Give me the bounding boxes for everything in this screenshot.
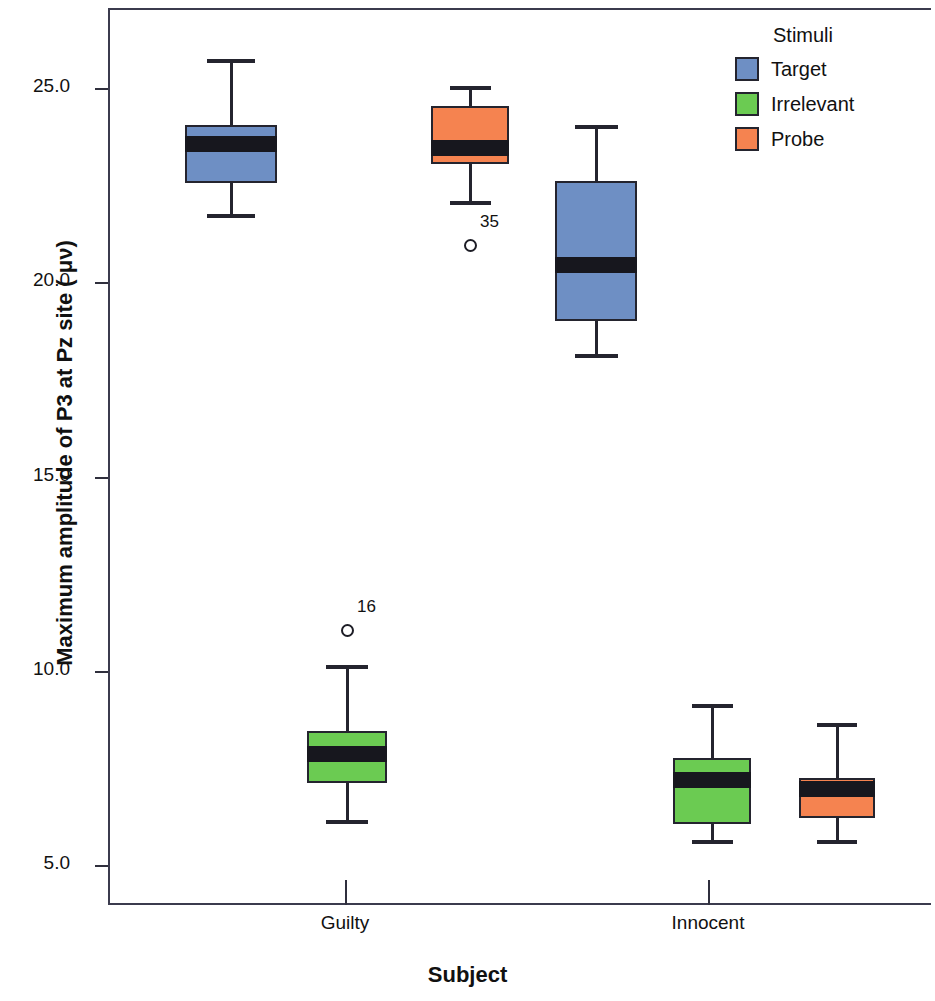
legend-swatch-icon bbox=[735, 57, 759, 81]
x-tick-mark bbox=[708, 880, 710, 905]
legend-item-label: Irrelevant bbox=[771, 94, 854, 114]
whisker-lower bbox=[595, 321, 598, 354]
x-tick-mark bbox=[345, 880, 347, 905]
y-tick-mark bbox=[95, 88, 108, 90]
whisker-cap-lower bbox=[450, 201, 491, 205]
whisker-cap-lower bbox=[817, 840, 857, 844]
outlier-marker bbox=[341, 624, 354, 637]
median-line bbox=[185, 136, 277, 152]
whisker-lower bbox=[836, 818, 839, 839]
whisker-cap-lower bbox=[326, 820, 368, 824]
outlier-marker bbox=[464, 239, 477, 252]
whisker-lower bbox=[469, 164, 472, 201]
whisker-upper bbox=[711, 704, 714, 758]
legend-item-label: Probe bbox=[771, 129, 824, 149]
whisker-upper bbox=[836, 723, 839, 777]
y-tick-label: 25.0 bbox=[0, 75, 70, 97]
whisker-lower bbox=[346, 783, 349, 820]
median-line bbox=[555, 257, 637, 273]
box-guilty-target bbox=[185, 125, 277, 183]
legend-item-probe: Probe bbox=[735, 127, 925, 151]
whisker-cap-lower bbox=[692, 840, 733, 844]
y-tick-label: 10.0 bbox=[0, 658, 70, 680]
boxplot-figure: Maximum amplitude of P3 at Pz site ( μν)… bbox=[0, 0, 935, 1001]
box-innocent-target bbox=[555, 181, 637, 321]
whisker-cap-lower bbox=[207, 214, 255, 218]
y-tick-mark bbox=[95, 865, 108, 867]
outlier-label: 35 bbox=[480, 212, 499, 232]
whisker-lower bbox=[711, 824, 714, 840]
legend-item-label: Target bbox=[771, 59, 827, 79]
x-tick-label: Guilty bbox=[245, 912, 445, 934]
whisker-cap-upper bbox=[207, 59, 255, 63]
median-line bbox=[799, 781, 875, 797]
y-tick-mark bbox=[95, 282, 108, 284]
y-tick-label: 20.0 bbox=[0, 269, 70, 291]
whisker-cap-upper bbox=[326, 665, 368, 669]
legend-swatch-icon bbox=[735, 127, 759, 151]
median-line bbox=[673, 772, 751, 788]
outlier-label: 16 bbox=[357, 597, 376, 617]
box-innocent-irrelevant bbox=[673, 758, 751, 824]
legend-title: Stimuli bbox=[773, 24, 925, 47]
whisker-cap-upper bbox=[817, 723, 857, 727]
y-tick-label: 5.0 bbox=[0, 852, 70, 874]
whisker-upper bbox=[346, 665, 349, 731]
whisker-cap-upper bbox=[575, 125, 618, 129]
legend-items: TargetIrrelevantProbe bbox=[735, 57, 925, 151]
x-tick-label: Innocent bbox=[608, 912, 808, 934]
x-axis-title: Subject bbox=[0, 962, 935, 988]
median-line bbox=[307, 746, 387, 762]
legend-item-irrelevant: Irrelevant bbox=[735, 92, 925, 116]
whisker-lower bbox=[230, 183, 233, 214]
y-axis-ticks: 25.020.015.010.05.0 bbox=[0, 0, 108, 1001]
y-tick-mark bbox=[95, 671, 108, 673]
median-line bbox=[431, 140, 509, 156]
y-tick-mark bbox=[95, 477, 108, 479]
legend-swatch-icon bbox=[735, 92, 759, 116]
legend-item-target: Target bbox=[735, 57, 925, 81]
whisker-upper bbox=[230, 59, 233, 125]
whisker-cap-upper bbox=[450, 86, 491, 90]
legend: Stimuli TargetIrrelevantProbe bbox=[735, 24, 925, 162]
whisker-cap-lower bbox=[575, 354, 618, 358]
whisker-upper bbox=[595, 125, 598, 181]
y-tick-label: 15.0 bbox=[0, 464, 70, 486]
whisker-cap-upper bbox=[692, 704, 733, 708]
